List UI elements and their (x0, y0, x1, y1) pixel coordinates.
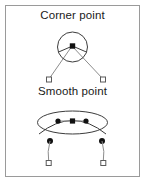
smooth-path-curve (39, 121, 106, 135)
smooth-curve-anchor-left[interactable] (47, 138, 53, 144)
figure-root: Corner point Smooth point (0, 0, 145, 184)
smooth-handle-stem-left (48, 141, 50, 161)
smooth-point-title: Smooth point (0, 85, 145, 98)
corner-anchor-point[interactable] (70, 43, 75, 48)
smooth-point-panel: Smooth point (0, 80, 145, 172)
corner-direction-line-right (72, 46, 103, 79)
smooth-curve-anchor-right[interactable] (99, 138, 105, 144)
smooth-direction-handle-right[interactable] (101, 161, 106, 166)
corner-path-kink (58, 46, 87, 52)
corner-point-panel: Corner point (0, 0, 145, 86)
corner-direction-line-left (49, 46, 72, 79)
corner-point-title: Corner point (0, 9, 145, 22)
smooth-direction-handle-left[interactable] (46, 161, 51, 166)
smooth-shape-ellipse (38, 111, 108, 134)
smooth-handle-stem-right (102, 141, 104, 161)
corner-shape-circle (58, 32, 88, 62)
smooth-anchor-point[interactable] (70, 118, 75, 123)
smooth-direction-point-left[interactable] (55, 118, 60, 123)
smooth-direction-point-right[interactable] (83, 118, 88, 123)
